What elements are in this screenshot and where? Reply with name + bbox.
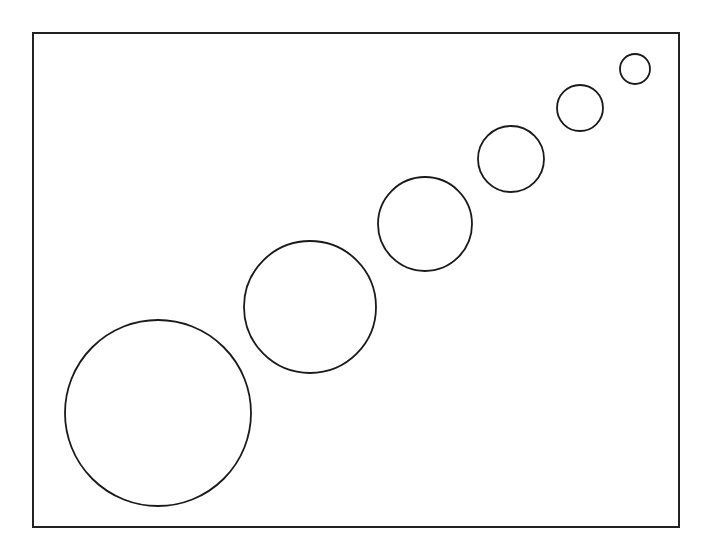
circle-small	[478, 126, 544, 192]
frame-rectangle	[33, 33, 679, 527]
circle-medium	[378, 177, 472, 271]
circle-group	[65, 54, 650, 506]
diagram-canvas	[0, 0, 706, 551]
circle-smaller	[557, 85, 603, 131]
circle-large	[244, 241, 376, 373]
circle-largest	[65, 320, 251, 506]
circle-smallest	[620, 54, 650, 84]
